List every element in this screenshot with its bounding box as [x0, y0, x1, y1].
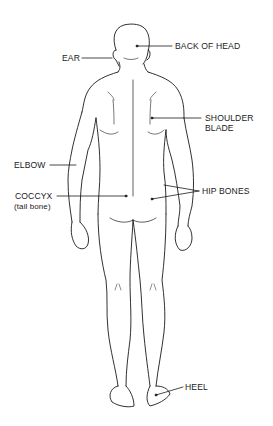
torso-left — [96, 118, 100, 214]
neck-lines — [124, 58, 138, 60]
left-arm-inner — [80, 118, 96, 222]
left-hand — [71, 222, 88, 249]
left-foot — [110, 386, 134, 407]
right-hand — [175, 226, 192, 250]
label-back-of-head: BACK OF HEAD — [175, 41, 240, 51]
right-leg-outer — [156, 214, 166, 386]
left-ear — [113, 50, 119, 66]
label-heel: HEEL — [185, 382, 208, 392]
right-arm-inner — [166, 130, 180, 226]
neck-right — [144, 64, 148, 72]
left-leg-inner — [126, 220, 133, 386]
label-elbow: ELBOW — [14, 160, 46, 170]
label-shoulder-blade-line2: BLADE — [205, 123, 234, 133]
shoulder-blade-left — [108, 92, 114, 124]
left-leg-outer — [98, 214, 118, 386]
left-shoulder — [82, 72, 118, 112]
label-coccyx: COCCYX — [15, 191, 52, 201]
right-foot — [147, 386, 170, 406]
torso-right — [164, 130, 166, 214]
label-shoulder-blade-line1: SHOULDER — [205, 113, 254, 123]
right-leg-inner — [133, 220, 150, 386]
label-ear: EAR — [62, 53, 80, 63]
label-hip-bones: HIP BONES — [202, 186, 250, 196]
back-muscle-right — [148, 130, 164, 134]
right-arm-outer — [184, 118, 194, 226]
back-muscle-left — [100, 130, 118, 134]
anatomy-diagram: BACK OF HEAD EAR SHOULDER BLADE ELBOW CO… — [0, 0, 273, 426]
human-figure-back-view — [0, 0, 273, 426]
knee-right — [150, 284, 156, 290]
head-outline — [114, 24, 149, 64]
shoulder-blade-right — [150, 92, 156, 124]
knee-left — [115, 284, 121, 290]
label-coccyx-sub: (tail bone) — [14, 202, 51, 212]
neck-left — [118, 62, 120, 72]
